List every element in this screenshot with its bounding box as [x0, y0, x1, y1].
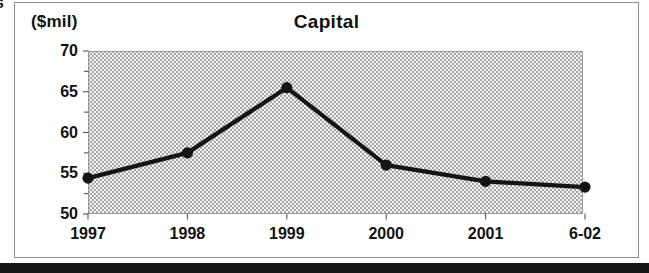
y-tick-label: 70	[40, 42, 78, 60]
x-tick-label: 2000	[353, 225, 419, 243]
x-tick-label: 1998	[154, 225, 220, 243]
x-tick-label: 1997	[55, 225, 121, 243]
x-tick-label: 2001	[453, 225, 519, 243]
x-tick-label: 1999	[254, 225, 320, 243]
y-tick-label: 50	[40, 205, 78, 223]
y-tick-label: 55	[40, 164, 78, 182]
y-tick-label: 65	[40, 83, 78, 101]
chart-figure: s ($mil) Capital 5055606570 199719981999…	[0, 0, 649, 273]
page-divider-bar	[0, 263, 649, 273]
x-tick-label: 6-02	[552, 225, 618, 243]
y-tick-label: 60	[40, 124, 78, 142]
